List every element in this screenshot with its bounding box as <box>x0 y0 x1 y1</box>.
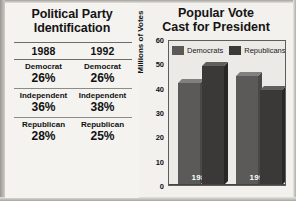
column-header-1992: 1992 <box>73 45 132 57</box>
chart-title-line1: Popular Vote <box>178 6 254 20</box>
y-tick-60: 60 <box>144 36 164 45</box>
left-panel-title-line1: Political Party <box>31 7 112 21</box>
bar-chart: Millions of Votes 6050403020100 Democrat… <box>139 39 293 195</box>
party-value-democrat-1992: 26% <box>73 72 132 85</box>
bar-face <box>202 66 224 185</box>
party-value-republican-1988: 28% <box>14 130 73 143</box>
y-tick-30: 30 <box>144 109 164 118</box>
bar-top <box>178 79 204 83</box>
bar-republicans-1992 <box>260 90 282 185</box>
table-header-row: 1988 1992 <box>14 43 132 59</box>
bar-face <box>260 90 282 185</box>
y-tick-10: 10 <box>144 157 164 166</box>
party-value-democrat-1988: 26% <box>14 72 73 85</box>
left-panel-title: Political Party Identification <box>5 3 139 35</box>
y-axis-ticks: 6050403020100 <box>144 39 164 185</box>
bar-top <box>236 72 262 76</box>
table-row: Independent 36% Independent 38% <box>14 89 132 117</box>
figure-root: Political Party Identification 1988 1992… <box>0 0 296 201</box>
x-axis-baseline <box>169 184 285 185</box>
party-value-independent-1992: 38% <box>73 101 132 114</box>
cell-democrat-1988: Democrat 26% <box>14 62 73 85</box>
cell-independent-1992: Independent 38% <box>73 91 132 114</box>
y-tick-40: 40 <box>144 84 164 93</box>
cell-independent-1988: Independent 36% <box>14 91 73 114</box>
page-edge-right <box>293 0 296 201</box>
bar-face <box>236 76 258 186</box>
column-header-1988: 1988 <box>14 45 73 57</box>
bar-democrats-1988: 1988 <box>178 83 200 185</box>
bar-top <box>260 86 286 90</box>
political-party-identification-panel: Political Party Identification 1988 1992… <box>5 3 139 198</box>
y-tick-50: 50 <box>144 60 164 69</box>
bar-republicans-1988 <box>202 66 224 185</box>
bar-side <box>224 62 228 185</box>
party-value-republican-1992: 25% <box>73 130 132 143</box>
bar-face <box>178 83 200 185</box>
chart-title-line2: Cast for President <box>139 20 293 34</box>
bar-top <box>202 62 228 66</box>
bar-democrats-1992: 1992 <box>236 76 258 186</box>
cell-republican-1992: Republican 25% <box>73 120 132 143</box>
party-identification-table: 1988 1992 Democrat 26% Democrat 26% Inde… <box>14 42 132 146</box>
table-row: Republican 28% Republican 25% <box>14 118 132 146</box>
bar-side <box>282 86 286 185</box>
cell-democrat-1992: Democrat 26% <box>73 62 132 85</box>
cell-republican-1988: Republican 28% <box>14 120 73 143</box>
y-tick-0: 0 <box>144 182 164 191</box>
left-panel-title-line2: Identification <box>5 21 139 35</box>
plot-area: DemocratsRepublicans 19881992 <box>168 40 286 186</box>
party-value-independent-1988: 36% <box>14 101 73 114</box>
popular-vote-chart-panel: Popular Vote Cast for President Millions… <box>139 3 293 198</box>
y-tick-20: 20 <box>144 133 164 142</box>
bars-container: 19881992 <box>169 41 285 185</box>
table-row: Democrat 26% Democrat 26% <box>14 60 132 88</box>
chart-title: Popular Vote Cast for President <box>139 3 293 34</box>
